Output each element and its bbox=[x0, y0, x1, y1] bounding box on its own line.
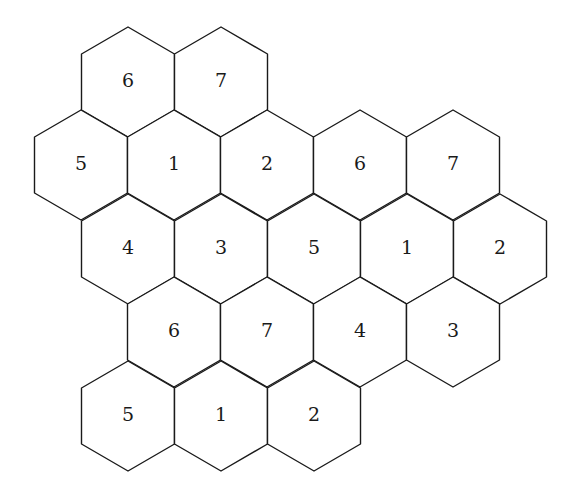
hex-label: 3 bbox=[447, 319, 459, 341]
hex-cells: 6751267435126743512 bbox=[35, 27, 547, 471]
hex-label: 5 bbox=[75, 152, 87, 174]
hex-label: 1 bbox=[215, 403, 227, 425]
hex-label: 6 bbox=[354, 152, 366, 174]
hex-label: 1 bbox=[401, 236, 413, 258]
hex-label: 6 bbox=[168, 319, 180, 341]
hex-label: 7 bbox=[261, 319, 273, 341]
hex-label: 7 bbox=[447, 152, 459, 174]
hex-label: 2 bbox=[308, 403, 320, 425]
hex-label: 4 bbox=[122, 236, 134, 258]
hex-label: 1 bbox=[168, 152, 180, 174]
hex-label: 5 bbox=[122, 403, 134, 425]
hex-label: 7 bbox=[215, 69, 227, 91]
hex-label: 6 bbox=[122, 69, 134, 91]
hex-grid-diagram: 6751267435126743512 bbox=[0, 0, 576, 498]
hex-label: 2 bbox=[494, 236, 506, 258]
hex-label: 3 bbox=[215, 236, 227, 258]
hex-label: 5 bbox=[308, 236, 320, 258]
hex-label: 2 bbox=[261, 152, 273, 174]
hex-label: 4 bbox=[354, 319, 366, 341]
